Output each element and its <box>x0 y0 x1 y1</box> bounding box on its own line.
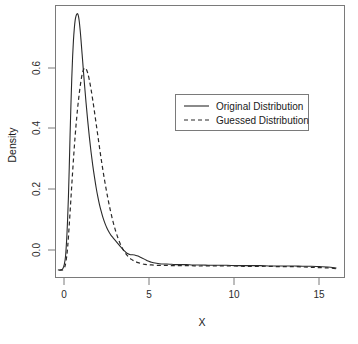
x-tick-label: 0 <box>61 289 67 300</box>
chart-background <box>0 0 358 344</box>
y-tick-label: 0.0 <box>31 243 42 257</box>
x-tick-label: 5 <box>146 289 152 300</box>
y-tick-label: 0.2 <box>31 182 42 196</box>
legend-label-guessed: Guessed Distribution <box>216 115 309 126</box>
x-axis-title: X <box>198 316 205 328</box>
legend-label-original: Original Distribution <box>216 101 303 112</box>
density-plot-figure: 0 5 10 15 0.0 0.2 0.4 0.6 Density X Or <box>0 0 358 344</box>
y-tick-label: 0.6 <box>31 61 42 75</box>
x-tick-label: 10 <box>228 289 240 300</box>
y-tick-label: 0.4 <box>31 121 42 135</box>
y-axis-title: Density <box>6 127 18 163</box>
chart-canvas: 0 5 10 15 0.0 0.2 0.4 0.6 Density X Or <box>0 0 358 344</box>
legend: Original Distribution Guessed Distributi… <box>176 95 309 131</box>
x-tick-label: 15 <box>313 289 325 300</box>
